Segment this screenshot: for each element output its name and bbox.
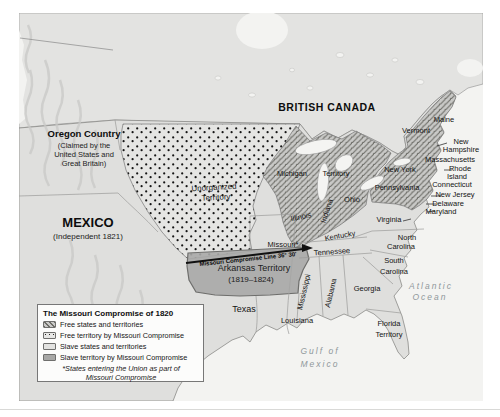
- legend-footnote-2: Missouri Compromise: [43, 373, 199, 382]
- legend-swatch-plain: [43, 343, 56, 350]
- legend: The Missouri Compromise of 1820 Free sta…: [37, 304, 204, 382]
- legend-swatch-hatch: [43, 321, 56, 328]
- legend-item-3: Slave territory by Missouri Compromise: [43, 353, 199, 362]
- legend-item-label: Free states and territories: [60, 320, 143, 329]
- legend-item-label: Slave states and territories: [60, 342, 146, 351]
- region-arkansas-territory: [187, 247, 309, 296]
- legend-items: Free states and territoriesFree territor…: [43, 320, 199, 362]
- legend-item-2: Slave states and territories: [43, 342, 199, 351]
- legend-item-1: Free territory by Missouri Compromise: [43, 331, 199, 340]
- legend-footnote-1: *States entering the Union as part of: [43, 364, 199, 373]
- legend-swatch-dark: [43, 354, 56, 361]
- missouri-compromise-map: Oregon Country(Claimed by theUnited Stat…: [0, 0, 500, 417]
- legend-item-label: Slave territory by Missouri Compromise: [60, 353, 187, 362]
- legend-item-label: Free territory by Missouri Compromise: [60, 331, 184, 340]
- legend-item-0: Free states and territories: [43, 320, 199, 329]
- bottom-rule: [0, 409, 500, 410]
- legend-swatch-dots: [43, 332, 56, 339]
- gulf-st-lawrence: [457, 59, 483, 77]
- legend-title: The Missouri Compromise of 1820: [43, 309, 199, 318]
